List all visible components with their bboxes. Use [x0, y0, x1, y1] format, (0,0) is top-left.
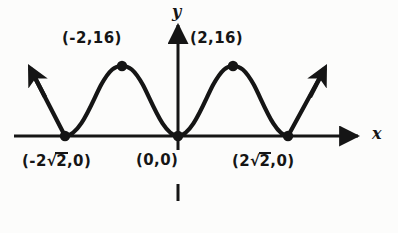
point-peak-left: [117, 61, 127, 71]
curve-arrow-left-icon: [30, 68, 45, 97]
label-root-left: (-2√2,0): [22, 153, 91, 169]
y-axis-label: y: [172, 4, 181, 20]
radicand-right: 2: [260, 152, 271, 170]
point-root-right: [283, 131, 293, 141]
radical-overbar-left-icon: [55, 152, 68, 154]
label-root-left-suffix: ,0): [67, 152, 91, 170]
label-root-left-prefix: (-2: [22, 152, 47, 170]
label-peak-left: (-2,16): [62, 31, 122, 46]
curve-arrow-right-icon: [310, 68, 325, 97]
radicand-left: 2: [56, 152, 67, 170]
label-root-right: (2√2,0): [232, 153, 295, 169]
radical-overbar-right-icon: [259, 152, 272, 154]
point-root-left: [60, 131, 70, 141]
point-peak-right: [228, 61, 238, 71]
label-root-right-suffix: ,0): [270, 152, 294, 170]
radical-right: √2: [250, 153, 270, 169]
graph-figure: y x (-2,16) (2,16) (-2√2,0) (0,0) (2√2,0…: [0, 0, 398, 233]
x-axis-label: x: [372, 126, 382, 142]
label-peak-right: (2,16): [190, 31, 243, 46]
label-root-right-prefix: (2: [232, 152, 250, 170]
label-origin: (0,0): [136, 153, 178, 168]
point-origin: [173, 131, 183, 141]
radical-left: √2: [47, 153, 67, 169]
